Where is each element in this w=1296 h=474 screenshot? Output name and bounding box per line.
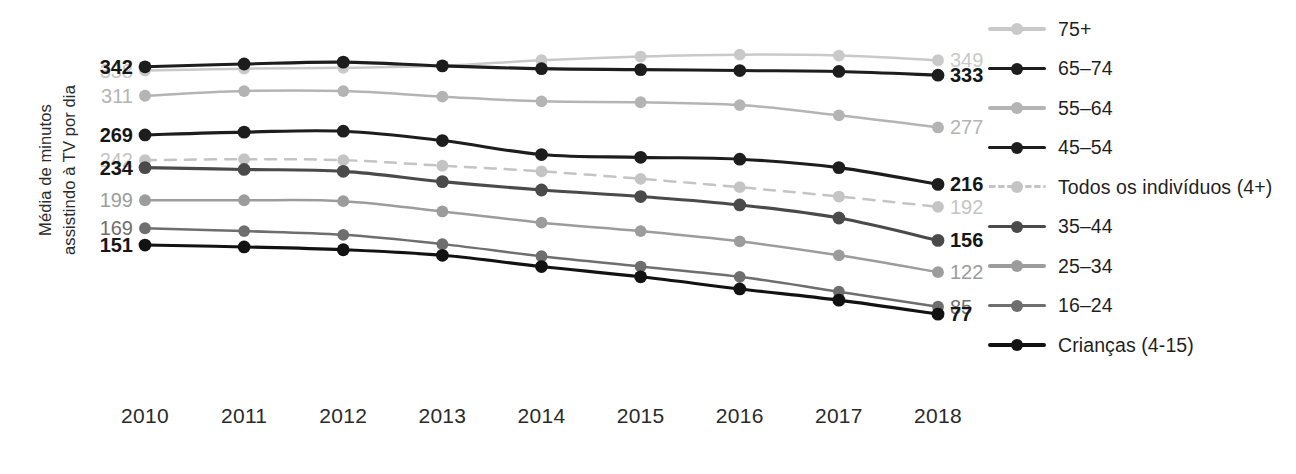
start-value-label: 311 [101,86,133,106]
series-line [145,168,938,241]
data-point [932,308,945,321]
data-point [734,181,746,193]
data-point [337,195,349,207]
data-point [238,163,251,176]
data-point [833,109,845,121]
legend-item-5[interactable]: 35–44 [988,214,1113,240]
x-axis-tick-2010: 2010 [121,404,169,428]
data-point [832,65,845,78]
data-point [932,201,944,213]
legend-item-6[interactable]: 25–34 [988,253,1113,279]
data-point [635,51,647,63]
data-point [436,206,448,218]
data-point [833,50,845,62]
data-point [536,217,548,229]
legend-swatch-icon [988,62,1046,76]
data-point [832,161,845,174]
data-point [337,56,350,69]
legend-item-4[interactable]: Todos os indivíduos (4+) [988,174,1272,200]
start-value-label: 234 [100,158,133,178]
legend-label: Todos os indivíduos (4+) [1058,176,1272,199]
legend-item-8[interactable]: Crianças (4-15) [988,332,1194,358]
end-value-label: 216 [950,174,983,194]
data-point [932,234,945,247]
data-point [337,165,350,178]
start-value-label: 151 [100,235,133,255]
data-point [436,249,449,262]
legend-item-2[interactable]: 55–64 [988,95,1113,121]
data-point [932,122,944,134]
data-point [734,271,746,283]
data-point [932,54,944,66]
legend-item-3[interactable]: 45–54 [988,135,1113,161]
data-point [238,85,250,97]
legend-swatch-icon [988,338,1046,352]
legend-swatch-icon [988,220,1046,234]
data-point [535,62,548,75]
data-point [734,235,746,247]
legend-label: 35–44 [1058,215,1113,238]
data-point [634,63,647,76]
legend-item-7[interactable]: 16–24 [988,293,1113,319]
data-point [535,148,548,161]
series-4 [139,153,944,212]
x-axis-tick-2015: 2015 [617,404,665,428]
data-point [238,58,251,71]
data-point [337,125,350,138]
legend-label: 65–74 [1058,57,1113,80]
data-point [832,212,845,225]
data-point [733,199,746,212]
data-point [932,178,945,191]
data-point [833,249,845,261]
series-2 [139,85,944,133]
data-point [139,222,151,234]
legend-swatch-icon [988,180,1046,194]
x-axis-tick-2012: 2012 [319,404,367,428]
data-point [337,243,350,256]
data-point [535,184,548,197]
data-point [139,60,152,73]
data-point [238,194,250,206]
legend-swatch-icon [988,141,1046,155]
data-point [635,173,647,185]
end-value-label: 77 [950,304,972,324]
x-axis-tick-2011: 2011 [221,404,267,428]
data-point [833,191,845,203]
legend-swatch-icon [988,22,1046,36]
legend-swatch-icon [988,299,1046,313]
data-point [436,175,449,188]
legend-label: 45–54 [1058,136,1113,159]
series-3 [139,125,945,191]
data-point [634,151,647,164]
legend-swatch-icon [988,259,1046,273]
legend-label: 75+ [1058,18,1091,41]
x-axis-tick-2017: 2017 [815,404,863,428]
legend-item-0[interactable]: 75+ [988,16,1091,42]
data-point [337,154,349,166]
data-point [436,238,448,250]
chart-root: Média de minutos assistindo à TV por dia… [0,0,1296,474]
data-point [337,229,349,241]
data-point [436,134,449,147]
data-point [238,225,250,237]
x-axis-tick-2016: 2016 [716,404,764,428]
legend-label: 16–24 [1058,294,1113,317]
data-point [733,283,746,296]
end-value-label: 333 [950,65,983,85]
legend-label: 55–64 [1058,97,1113,120]
x-axis-tick-2013: 2013 [418,404,466,428]
end-value-label: 122 [950,262,983,282]
data-point [733,64,746,77]
data-point [238,241,251,254]
data-point [139,90,151,102]
data-point [635,96,647,108]
data-point [832,294,845,307]
legend-swatch-icon [988,101,1046,115]
data-point [634,190,647,203]
data-point [635,225,647,237]
data-point [139,194,151,206]
data-point [436,160,448,172]
data-point [734,49,746,61]
x-axis-tick-2014: 2014 [518,404,566,428]
legend-item-1[interactable]: 65–74 [988,56,1113,82]
